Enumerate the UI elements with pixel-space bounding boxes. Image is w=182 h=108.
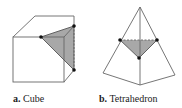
- caption-letter: a.: [13, 93, 21, 104]
- tetrahedron-vertex-dot: [118, 38, 122, 42]
- cube-cross-section: [41, 26, 74, 70]
- tetrahedron-cross-section: [120, 40, 157, 58]
- cube-vertex-dot: [39, 35, 43, 39]
- caption-letter: b.: [99, 93, 107, 104]
- tetrahedron-vertex-dot: [155, 38, 159, 42]
- figure-canvas: [0, 0, 182, 108]
- tetrahedron-vertex-dot: [137, 56, 141, 60]
- cube-right-edge: [64, 70, 74, 82]
- caption-label: Tetrahedron: [109, 93, 157, 104]
- cube-vertex-dot: [72, 68, 76, 72]
- cube-diagram: [13, 16, 76, 82]
- caption-cube: a. Cube: [13, 94, 44, 104]
- cube-vertex-dot: [72, 24, 76, 28]
- caption-tetrahedron: b. Tetrahedron: [99, 94, 158, 104]
- tetrahedron-diagram: [103, 7, 175, 85]
- caption-label: Cube: [23, 93, 44, 104]
